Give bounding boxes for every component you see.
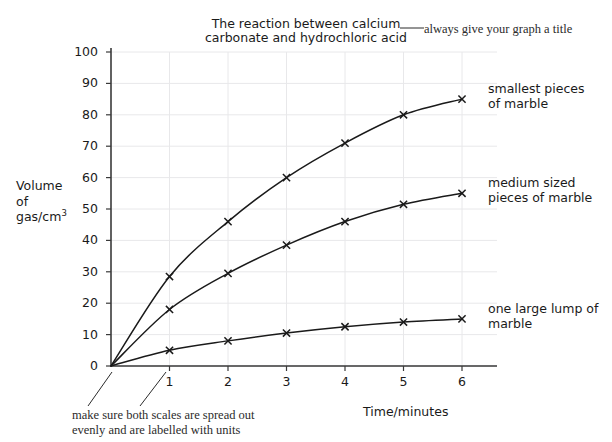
- series-label-0-line-1: of marble: [488, 96, 585, 111]
- annotation-scales-line-2: evenly and are labelled with units: [72, 423, 255, 438]
- x-axis-tick-label: 1: [160, 374, 180, 389]
- series-label-2-line-1: marble: [488, 316, 598, 331]
- series-label-1-line-0: medium sized: [488, 175, 592, 190]
- graph-worksheet: The reaction between calciumcarbonate an…: [0, 0, 612, 442]
- series-label-1: medium sizedpieces of marble: [488, 175, 592, 205]
- y-axis-tick-label: 60: [66, 170, 98, 185]
- y-axis-tick-label: 50: [66, 201, 98, 216]
- data-point-markers: [166, 96, 466, 354]
- series-label-2-line-0: one large lump of: [488, 301, 598, 316]
- y-axis-title-units: gas/cm: [16, 209, 61, 224]
- annotation-scales-note: make sure both scales are spread out eve…: [72, 408, 255, 438]
- chart-title: The reaction between calciumcarbonate an…: [180, 17, 432, 45]
- y-axis-tick-label: 100: [66, 44, 98, 59]
- annotation-leader-lines: [88, 28, 424, 406]
- chart-title-line-2: carbonate and hydrochloric acid: [180, 31, 432, 45]
- series-label-0: smallest piecesof marble: [488, 81, 585, 111]
- y-axis-title-line-1: Volume: [16, 178, 67, 194]
- x-axis-tick-label: 4: [335, 374, 355, 389]
- series-label-2: one large lump ofmarble: [488, 301, 598, 331]
- gridlines: [111, 52, 497, 366]
- axis-ticks: [106, 52, 462, 371]
- axes: [111, 48, 497, 366]
- x-axis-tick-label: 3: [277, 374, 297, 389]
- leader-line-origin: [88, 372, 112, 406]
- chart-title-line-1: The reaction between calcium: [180, 17, 432, 31]
- y-axis-tick-label: 40: [66, 232, 98, 247]
- y-axis-tick-label: 20: [66, 295, 98, 310]
- x-axis-title: Time/minutes: [363, 404, 448, 419]
- y-axis-tick-label: 70: [66, 138, 98, 153]
- y-axis-tick-label: 90: [66, 75, 98, 90]
- annotation-scales-line-1: make sure both scales are spread out: [72, 408, 255, 423]
- y-axis-tick-label: 0: [66, 358, 98, 373]
- y-axis-title: Volume of gas/cm3: [16, 178, 67, 225]
- y-axis-tick-label: 80: [66, 107, 98, 122]
- x-axis-tick-label: 2: [218, 374, 238, 389]
- y-axis-title-line-3: gas/cm3: [16, 209, 67, 225]
- y-axis-tick-label: 30: [66, 264, 98, 279]
- y-axis-title-line-2: of: [16, 194, 67, 210]
- y-axis-tick-label: 10: [66, 327, 98, 342]
- x-axis-tick-label: 6: [452, 374, 472, 389]
- x-axis-tick-label: 5: [394, 374, 414, 389]
- series-label-0-line-0: smallest pieces: [488, 81, 585, 96]
- annotation-title-note: always give your graph a title: [424, 22, 572, 37]
- chart-canvas: [0, 0, 612, 442]
- series-label-1-line-1: pieces of marble: [488, 190, 592, 205]
